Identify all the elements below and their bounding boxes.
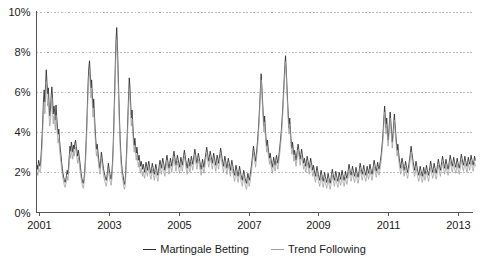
y-tick-label: 6% <box>15 86 31 98</box>
x-tick-label: 2011 <box>377 219 401 231</box>
x-tick-label: 2005 <box>167 219 191 231</box>
x-tick-label: 2003 <box>97 219 121 231</box>
x-tick-label: 2009 <box>306 219 330 231</box>
chart-canvas: 0%2%4%6%8%10% 20012003200520072009201120… <box>0 0 482 266</box>
y-tick-label: 2% <box>15 166 31 178</box>
legend-label-1: Martingale Betting <box>160 243 249 255</box>
y-tick-label: 10% <box>8 6 30 18</box>
volatility-line-chart: 0%2%4%6%8%10% 20012003200520072009201120… <box>0 0 482 266</box>
x-tick-label: 2001 <box>27 219 51 231</box>
x-tick-label: 2013 <box>446 219 470 231</box>
y-tick-label: 8% <box>15 46 31 58</box>
x-tick-label: 2007 <box>237 219 261 231</box>
y-tick-label: 4% <box>15 126 31 138</box>
legend-label-2: Trend Following <box>288 243 366 255</box>
y-tick-label: 0% <box>15 207 31 219</box>
